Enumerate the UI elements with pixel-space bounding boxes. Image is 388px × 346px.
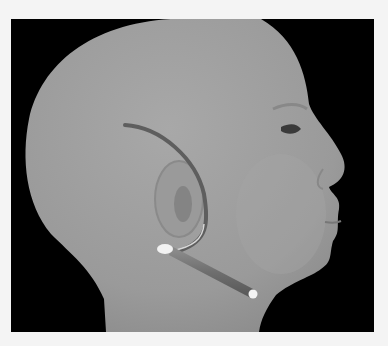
cheek-shading [236,154,326,274]
render-panel [11,19,374,332]
lead-tip-lower [249,290,258,299]
ear-concha [174,186,192,222]
head-rendering [11,19,374,332]
lead-tip-upper [157,244,173,254]
